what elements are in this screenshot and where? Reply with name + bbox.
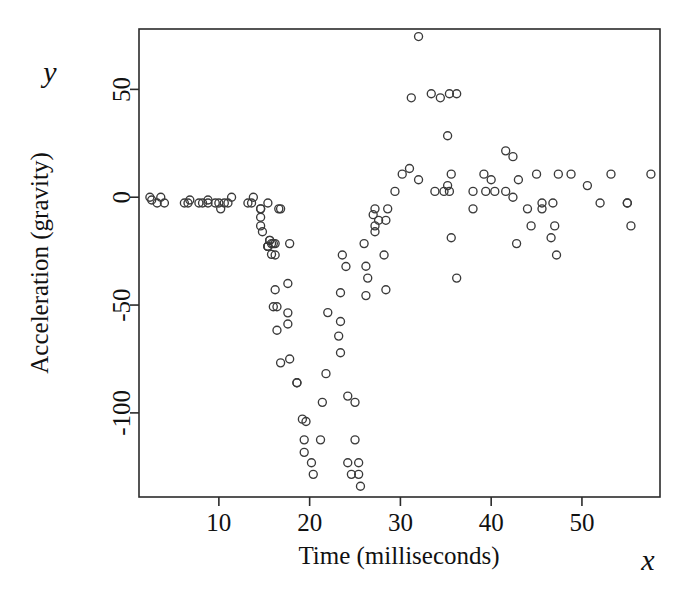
data-point [344, 392, 352, 400]
data-points [146, 33, 655, 491]
data-point [509, 193, 517, 201]
data-point [337, 317, 345, 325]
x-tick-label: 30 [388, 509, 413, 536]
data-point [257, 213, 265, 221]
plot-frame [139, 29, 660, 497]
data-point [228, 193, 236, 201]
data-point [554, 170, 562, 178]
data-point [257, 205, 265, 213]
x-variable-label: x [640, 543, 655, 576]
data-point [469, 187, 477, 195]
data-point [293, 379, 301, 387]
y-tick-label: -50 [108, 288, 135, 321]
y-tick-label: 50 [108, 77, 135, 102]
data-point [447, 234, 455, 242]
data-point [324, 309, 332, 317]
data-point [453, 274, 461, 282]
data-point [407, 94, 415, 102]
data-point [627, 222, 635, 230]
x-tick-label: 40 [479, 509, 504, 536]
data-point [427, 90, 435, 98]
data-point [317, 436, 325, 444]
data-point [509, 153, 517, 161]
data-point [286, 240, 294, 248]
y-axis-tick-labels: 500-50-100 [108, 77, 135, 436]
y-axis-ticks [130, 89, 139, 413]
data-point [300, 436, 308, 444]
data-point [284, 309, 292, 317]
data-point [356, 482, 364, 490]
data-point [362, 262, 370, 270]
data-point [286, 355, 294, 363]
data-point [380, 251, 388, 259]
data-point [502, 187, 510, 195]
data-point [547, 234, 555, 242]
data-point [415, 33, 423, 41]
data-point [623, 199, 631, 207]
y-tick-label: -100 [108, 390, 135, 436]
data-point [355, 459, 363, 467]
data-point [469, 205, 477, 213]
data-point [398, 170, 406, 178]
data-point [382, 286, 390, 294]
data-point [338, 251, 346, 259]
x-axis-ticks [219, 497, 582, 506]
data-point [431, 187, 439, 195]
data-point [567, 170, 575, 178]
data-point [391, 187, 399, 195]
data-point [157, 193, 165, 201]
data-point [364, 274, 372, 282]
y-variable-label: y [40, 55, 57, 88]
data-point [444, 132, 452, 140]
data-point [273, 326, 281, 334]
data-point [436, 94, 444, 102]
data-point [553, 251, 561, 259]
scatter-plot: 500-50-100 1020304050 Acceleration (grav… [0, 0, 695, 603]
data-point [309, 470, 317, 478]
data-point [371, 228, 379, 236]
data-point [487, 176, 495, 184]
data-point [447, 170, 455, 178]
data-point [533, 170, 541, 178]
data-point [284, 279, 292, 287]
data-point [551, 222, 559, 230]
data-point [491, 187, 499, 195]
data-point [607, 170, 615, 178]
data-point [583, 182, 591, 190]
data-point [337, 349, 345, 357]
data-point [596, 199, 604, 207]
data-point [284, 320, 292, 328]
data-point [307, 459, 315, 467]
data-point [344, 459, 352, 467]
data-point [318, 398, 326, 406]
data-point [482, 187, 490, 195]
data-point [514, 176, 522, 184]
data-point [351, 398, 359, 406]
x-tick-label: 20 [297, 509, 322, 536]
data-point [384, 205, 392, 213]
data-point [337, 289, 345, 297]
x-tick-label: 10 [206, 509, 231, 536]
data-point [351, 436, 359, 444]
data-point [277, 359, 285, 367]
data-point [342, 262, 350, 270]
data-point [300, 448, 308, 456]
data-point [405, 165, 413, 173]
data-point [549, 199, 557, 207]
y-tick-label: 0 [108, 191, 135, 204]
data-point [647, 170, 655, 178]
x-tick-label: 50 [569, 509, 594, 536]
data-point [360, 240, 368, 248]
data-point [523, 205, 531, 213]
data-point [335, 332, 343, 340]
data-point [502, 147, 510, 155]
data-point [271, 286, 279, 294]
data-point [322, 370, 330, 378]
data-point [527, 222, 535, 230]
y-axis-title: Acceleration (gravity) [26, 152, 54, 373]
figure-container: 500-50-100 1020304050 Acceleration (grav… [0, 0, 695, 603]
x-axis-tick-labels: 1020304050 [206, 509, 594, 536]
data-point [480, 170, 488, 178]
data-point [415, 176, 423, 184]
data-point [538, 205, 546, 213]
